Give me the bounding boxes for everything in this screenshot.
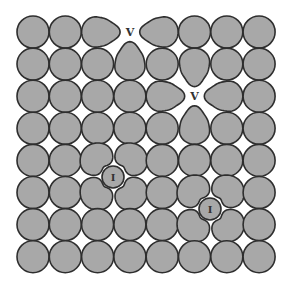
lattice-atom	[243, 80, 275, 112]
interstitial-atom: I	[199, 198, 221, 220]
lattice-atom	[49, 48, 81, 80]
lattice-atom	[17, 209, 49, 241]
lattice-atom	[146, 241, 178, 273]
lattice-atom	[179, 16, 211, 48]
lattice-atom	[82, 241, 114, 273]
lattice-atom	[211, 112, 243, 144]
lattice-atom	[146, 144, 178, 176]
interstitial-atom: I	[102, 166, 124, 188]
lattice-atom	[82, 17, 121, 47]
lattice-atom	[179, 106, 209, 145]
lattice-atom	[17, 16, 49, 48]
lattice-atom	[211, 48, 243, 80]
lattice-atoms	[17, 16, 275, 273]
lattice-atom	[114, 80, 146, 112]
lattice-atom	[17, 80, 49, 112]
vacancy-label: V	[189, 90, 199, 103]
lattice-atom	[82, 112, 114, 144]
lattice-atom	[82, 48, 114, 80]
lattice-atom	[179, 144, 211, 176]
lattice-atom	[243, 177, 275, 209]
lattice-atom	[49, 80, 81, 112]
lattice-atom	[49, 177, 81, 209]
lattice-atom	[243, 144, 275, 176]
lattice-atom	[49, 144, 81, 176]
lattice-atom	[243, 48, 275, 80]
lattice-atom	[82, 209, 114, 241]
lattice-atom	[140, 17, 179, 47]
lattice-atom	[243, 112, 275, 144]
lattice-atom	[82, 80, 114, 112]
lattice-atom	[243, 16, 275, 48]
lattice-atom	[17, 177, 49, 209]
lattice-atom	[49, 112, 81, 144]
lattice-atom	[49, 16, 81, 48]
lattice-atom	[115, 42, 145, 81]
lattice-atom	[211, 241, 243, 273]
crystal-lattice-diagram: VVII	[0, 0, 295, 287]
interstitial-label: I	[208, 204, 213, 215]
lattice-atom	[17, 144, 49, 176]
lattice-atom	[17, 48, 49, 80]
lattice-atom	[179, 241, 211, 273]
lattice-atom	[146, 209, 178, 241]
lattice-atom	[17, 241, 49, 273]
lattice-atom	[146, 112, 178, 144]
lattice-atom	[243, 241, 275, 273]
lattice-atom	[211, 16, 243, 48]
interstitial-label: I	[111, 172, 116, 183]
lattice-atom	[204, 81, 243, 111]
lattice-atom	[49, 209, 81, 241]
lattice-atom	[179, 48, 209, 87]
lattice-atom	[49, 241, 81, 273]
vacancy-label: V	[125, 26, 135, 39]
lattice-atom	[146, 177, 178, 209]
lattice-atom	[146, 81, 185, 111]
lattice-atom	[17, 112, 49, 144]
lattice-atom	[114, 241, 146, 273]
lattice-atom	[114, 209, 146, 241]
lattice-atom	[243, 209, 275, 241]
lattice-atom	[211, 144, 243, 176]
lattice-atom	[114, 112, 146, 144]
lattice-atom	[146, 48, 178, 80]
